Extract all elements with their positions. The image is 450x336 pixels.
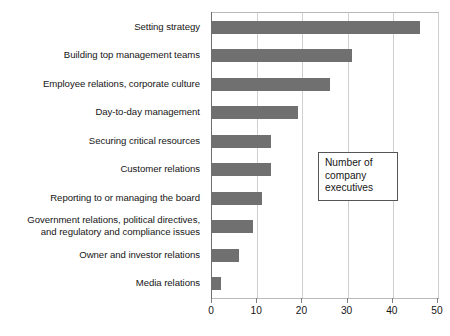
bar: [212, 220, 253, 233]
x-axis-tick-10: [256, 298, 257, 303]
legend-annotation-line: Number of: [325, 157, 391, 170]
category-label: Customer relations: [0, 163, 200, 174]
x-axis-tick-label: 10: [236, 305, 276, 317]
x-axis-tick-20: [301, 298, 302, 303]
bar: [212, 163, 271, 176]
x-axis-tick-50: [437, 298, 438, 303]
legend-annotation-line: company: [325, 170, 391, 183]
bar: [212, 192, 262, 205]
bar: [212, 78, 330, 91]
x-axis-tick-0: [211, 298, 212, 303]
bar-chart: Setting strategyBuilding top management …: [0, 0, 450, 336]
x-axis-tick-label: 30: [327, 305, 367, 317]
bar: [212, 21, 420, 34]
category-label: Reporting to or managing the board: [0, 192, 200, 203]
x-axis-tick-30: [347, 298, 348, 303]
x-axis-tick-label: 40: [372, 305, 412, 317]
legend-annotation-box: Number ofcompanyexecutives: [318, 152, 398, 201]
bar: [212, 135, 271, 148]
bar: [212, 49, 352, 62]
x-axis-tick-40: [392, 298, 393, 303]
bar: [212, 106, 298, 119]
category-label: Setting strategy: [0, 21, 200, 32]
category-label: Employee relations, corporate culture: [0, 78, 200, 89]
category-label: Building top management teams: [0, 49, 200, 60]
bar: [212, 277, 221, 290]
legend-annotation-line: executives: [325, 182, 391, 195]
x-axis-tick-label: 0: [191, 305, 231, 317]
category-label: Media relations: [0, 277, 200, 288]
gridline-50: [438, 13, 439, 298]
x-axis-tick-label: 50: [417, 305, 450, 317]
category-label: Owner and investor relations: [0, 249, 200, 260]
category-label: Securing critical resources: [0, 135, 200, 146]
category-label: Day-to-day management: [0, 106, 200, 117]
x-axis-tick-label: 20: [281, 305, 321, 317]
bar: [212, 249, 239, 262]
category-label: Government relations, political directiv…: [0, 214, 200, 237]
category-axis-labels: Setting strategyBuilding top management …: [0, 12, 206, 297]
